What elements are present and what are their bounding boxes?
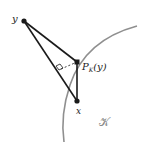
label-y: y [11,13,18,24]
point-y [21,18,26,23]
label-projection: PK(y) [81,61,107,73]
segment-y-to-projection [24,21,77,62]
label-projection-arg: (y) [93,61,107,72]
label-x: x [76,106,81,116]
point-x [74,98,79,103]
point-projection [75,60,80,65]
projection-diagram: y x PK(y) 𝒦 [0,0,149,150]
label-set-k: 𝒦 [99,116,111,129]
segment-y-to-x [24,21,77,101]
